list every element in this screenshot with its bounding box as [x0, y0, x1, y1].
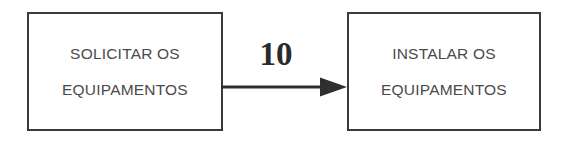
activity-node-solicitar-line-1: SOLICITAR OS — [70, 46, 180, 62]
diagram-canvas: SOLICITAR OS EQUIPAMENTOS 10 INSTALAR OS… — [0, 0, 561, 141]
activity-node-solicitar-line-2: EQUIPAMENTOS — [62, 82, 188, 98]
edge-arrow-solicitar-to-instalar[interactable] — [220, 70, 349, 104]
activity-node-instalar[interactable]: INSTALAR OS EQUIPAMENTOS — [347, 12, 541, 131]
activity-node-instalar-line-2: EQUIPAMENTOS — [381, 82, 507, 98]
arrowhead-icon — [320, 78, 347, 97]
activity-node-instalar-line-1: INSTALAR OS — [392, 46, 496, 62]
edge-weight-label: 10 — [236, 38, 316, 71]
activity-node-solicitar[interactable]: SOLICITAR OS EQUIPAMENTOS — [27, 12, 223, 131]
